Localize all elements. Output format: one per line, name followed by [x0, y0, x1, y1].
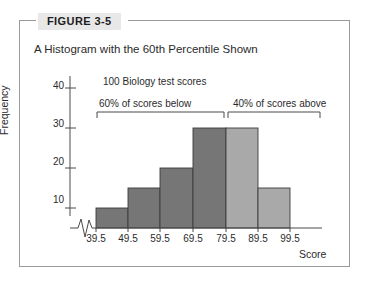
bracket-percent-above — [228, 112, 320, 118]
histogram-plot — [0, 0, 369, 285]
bar-49-5-59-5 — [128, 188, 160, 228]
histogram-bars — [96, 128, 290, 228]
bar-69-5-79-5 — [193, 128, 226, 228]
bar-59-5-69-5 — [160, 168, 193, 228]
x-axis-break-zigzag — [78, 219, 92, 237]
histogram-svg — [0, 0, 369, 285]
bar-79-5-89-5 — [226, 128, 258, 228]
figure-container: FIGURE 3-5 A Histogram with the 60th Per… — [0, 0, 369, 285]
bar-39-5-49-5 — [96, 208, 128, 228]
bar-89-5-99-5 — [258, 188, 290, 228]
x-axis-ticks — [96, 228, 290, 232]
bracket-percent-below — [97, 112, 224, 118]
